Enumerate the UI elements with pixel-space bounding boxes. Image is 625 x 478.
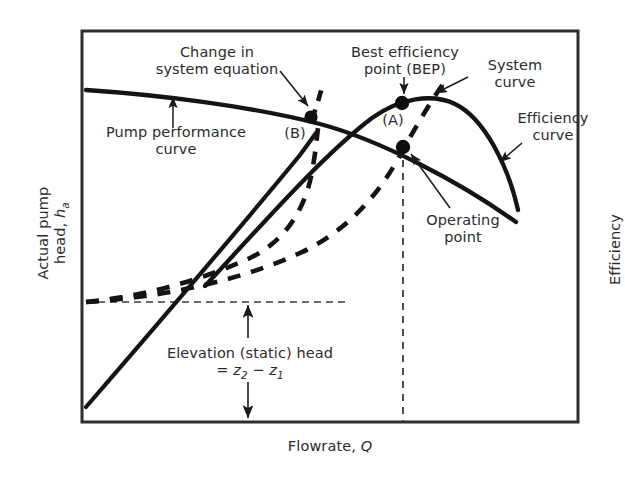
y-axis-left-symbol: h (52, 209, 68, 218)
y-axis-left-line2: head, ha (52, 202, 68, 264)
y-axis-left-subscript: a (59, 202, 71, 209)
efficiency-curve-arrow (500, 143, 522, 162)
system-curve-label: Systemcurve (474, 57, 556, 91)
marker-bep (395, 96, 409, 110)
best-efficiency-point-label: Best efficiencypoint (BEP) (325, 44, 485, 78)
elevation-head-sub-2: 2 (241, 369, 248, 381)
change-in-system-equation-label: Change insystem equation (142, 44, 292, 78)
y-axis-left-line2-prefix: head, (52, 218, 68, 264)
pump-performance-curve-line2: curve (155, 141, 196, 157)
elevation-head-eq-prefix: = (216, 362, 233, 378)
best-efficiency-point-line2: point (BEP) (364, 61, 446, 77)
change-in-system-equation-line2: system equation (156, 61, 279, 77)
efficiency-curve-line1: Efficiency (517, 110, 588, 126)
pump-performance-curve-line1: Pump performance (106, 124, 246, 140)
elevation-head-z-symbol-1: z (269, 362, 277, 378)
point-a-label: (A) (375, 112, 411, 129)
elevation-static-head-label: Elevation (static) head= z2 − z1 (152, 345, 348, 381)
best-efficiency-point-line1: Best efficiency (351, 44, 459, 60)
marker-point-b (304, 110, 317, 123)
change-in-system-equation-line1: Change in (180, 44, 254, 60)
operating-point-line1: Operating (426, 212, 499, 228)
efficiency-curve-line2: curve (532, 127, 573, 143)
point-b-label: (B) (277, 125, 313, 142)
x-axis-label-prefix: Flowrate, (288, 438, 361, 454)
elevation-head-minus: − (248, 362, 270, 378)
operating-point-line2: point (444, 229, 481, 245)
elevation-static-head-line1: Elevation (static) head (167, 345, 333, 361)
efficiency-curve-label: Efficiencycurve (500, 110, 606, 144)
system-curve-line2: curve (494, 74, 535, 90)
elevation-head-z-symbol-2: z (233, 362, 241, 378)
x-axis-label-symbol: Q (361, 438, 373, 454)
marker-point-a (396, 140, 410, 154)
y-axis-right-label: Efficiency (607, 175, 624, 325)
system-curve-line1: System (488, 57, 543, 73)
y-axis-left-line1: Actual pump (35, 187, 51, 280)
operating-point-arrow (411, 154, 450, 208)
pump-performance-curve-label: Pump performancecurve (96, 124, 256, 158)
y-axis-left-label: Actual pumphead, ha (35, 138, 71, 328)
elevation-head-sub-1: 1 (277, 369, 284, 381)
x-axis-label: Flowrate, Q (250, 438, 410, 455)
elevation-static-head-equation: = z2 − z1 (216, 362, 284, 378)
operating-point-label: Operatingpoint (408, 212, 518, 246)
